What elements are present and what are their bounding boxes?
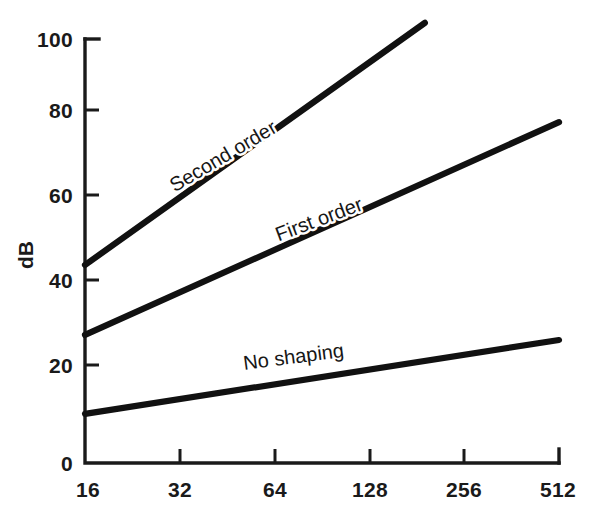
y-tick-label-40: 40 bbox=[49, 269, 73, 292]
noise-shaping-line-chart: 100 80 60 40 20 0 16 32 64 128 256 512 d… bbox=[0, 0, 591, 524]
x-tick-label-128: 128 bbox=[352, 478, 388, 501]
x-tick-label-64: 64 bbox=[263, 478, 287, 501]
figure-canvas: 100 80 60 40 20 0 16 32 64 128 256 512 d… bbox=[0, 0, 591, 524]
x-tick-label-512: 512 bbox=[540, 478, 576, 501]
x-tick-label-256: 256 bbox=[446, 478, 482, 501]
y-tick-label-0: 0 bbox=[61, 452, 73, 475]
y-tick-label-60: 60 bbox=[49, 184, 73, 207]
y-axis-title: dB bbox=[14, 241, 37, 269]
y-tick-label-20: 20 bbox=[49, 354, 73, 377]
y-tick-label-100: 100 bbox=[37, 28, 73, 51]
y-tick-label-80: 80 bbox=[49, 99, 73, 122]
x-tick-label-16: 16 bbox=[76, 478, 100, 501]
x-tick-label-32: 32 bbox=[168, 478, 192, 501]
